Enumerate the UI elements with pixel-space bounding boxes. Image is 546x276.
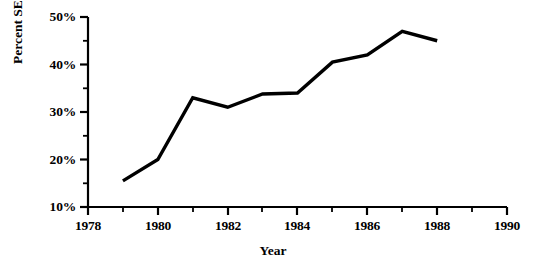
- x-tick-label-1984: 1984: [272, 218, 322, 234]
- x-tick-label-1982: 1982: [203, 218, 253, 234]
- data-series-line: [123, 31, 437, 181]
- x-major-ticks: [88, 207, 507, 215]
- x-tick-label-1990: 1990: [482, 218, 532, 234]
- y-tick-label-30: 30%: [32, 104, 76, 120]
- y-tick-label-10: 10%: [32, 199, 76, 215]
- chart-plot-area: [0, 0, 546, 276]
- x-tick-label-1980: 1980: [133, 218, 183, 234]
- y-tick-label-40: 40%: [32, 57, 76, 73]
- x-axis-title: Year: [0, 243, 546, 259]
- y-axis-title: Percent SEP: [10, 0, 26, 64]
- y-major-ticks: [80, 17, 88, 207]
- y-tick-label-50: 50%: [32, 9, 76, 25]
- x-tick-label-1988: 1988: [412, 218, 462, 234]
- x-tick-label-1986: 1986: [342, 218, 392, 234]
- y-tick-label-20: 20%: [32, 152, 76, 168]
- line-chart: 50% 40% 30% 20% 10% 1978 1980 1982 1984 …: [0, 0, 546, 276]
- x-tick-label-1978: 1978: [63, 218, 113, 234]
